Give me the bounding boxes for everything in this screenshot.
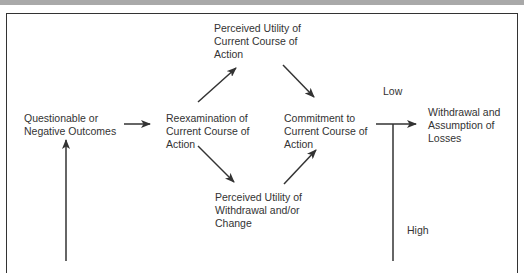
node-text-line: Change [215,217,302,230]
node-text-line: Perceived Utility of [215,191,302,204]
arrow-reexamination-to-utility-current [198,68,236,102]
node-text-line: Current Course of [166,125,249,138]
node-text-line: Action [284,138,367,151]
label-low: Low [383,85,402,98]
node-text-line: Questionable or [24,112,116,125]
node-withdrawal-losses: Withdrawal and Assumption of Losses [428,106,500,145]
node-reexamination: Reexamination of Current Course of Actio… [166,112,249,151]
node-text-line: Losses [428,132,500,145]
node-utility-withdrawal: Perceived Utility of Withdrawal and/or C… [215,191,302,230]
label-high: High [407,224,429,237]
node-text-line: Action [214,48,301,61]
node-commitment: Commitment to Current Course of Action [284,112,367,151]
node-text-line: Reexamination of [166,112,249,125]
node-text-line: Assumption of [428,119,500,132]
node-text-line: Current Course of [284,125,367,138]
node-utility-current: Perceived Utility of Current Course of A… [214,22,301,61]
node-text-line: Perceived Utility of [214,22,301,35]
arrow-reexamination-to-utility-withdrawal [198,146,234,182]
node-text-line: Commitment to [284,112,367,125]
arrow-utility-current-to-commitment [283,65,314,97]
node-text-line: Negative Outcomes [24,125,116,138]
node-text-line: Withdrawal and [428,106,500,119]
node-text-line: Action [166,138,249,151]
node-questionable-outcomes: Questionable or Negative Outcomes [24,112,116,138]
arrow-utility-withdrawal-to-commitment [284,150,316,184]
node-text-line: Current Course of [214,35,301,48]
node-text-line: Withdrawal and/or [215,204,302,217]
